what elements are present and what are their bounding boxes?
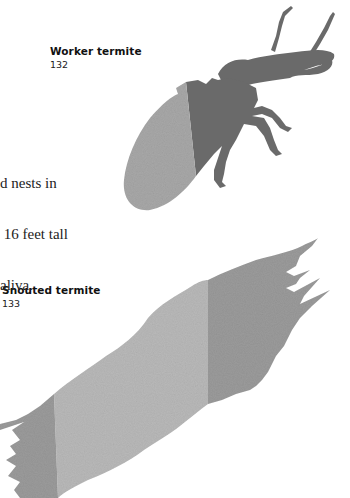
worker-termite-illustration bbox=[124, 6, 335, 210]
book-page: Worker termite 132 Snouted termite 133 d… bbox=[0, 0, 350, 498]
worker-termite-number: 132 bbox=[50, 59, 68, 70]
body-line: d nests in bbox=[0, 175, 68, 192]
worker-termite-label: Worker termite bbox=[50, 45, 142, 57]
body-paragraph: d nests in 16 feet tall aliva. bbox=[0, 141, 68, 328]
body-line: aliva. bbox=[0, 277, 68, 294]
body-line: 16 feet tall bbox=[0, 226, 68, 243]
